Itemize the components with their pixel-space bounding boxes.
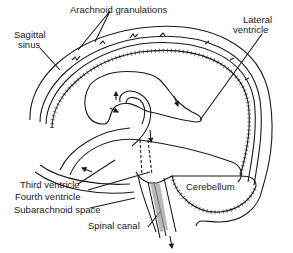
third-ventricle bbox=[120, 91, 151, 146]
label-third-ventricle: Third ventricle bbox=[20, 180, 80, 190]
label-cerebellum: Cerebellum bbox=[186, 182, 235, 192]
label-fourth-ventricle: Fourth ventricle bbox=[15, 192, 80, 202]
aqueduct bbox=[140, 140, 152, 175]
lateral-ventricle bbox=[85, 72, 202, 125]
label-sagittal-sinus-line2: sinus bbox=[18, 40, 40, 50]
label-subarachnoid-space: Subarachnoid space bbox=[14, 205, 101, 215]
subarachnoid-shading bbox=[150, 182, 168, 232]
label-spinal-canal: Spinal canal bbox=[88, 221, 140, 231]
label-lateral-ventricle-line2: ventricle bbox=[233, 25, 268, 35]
label-arachnoid-granulations: Arachnoid granulations bbox=[70, 5, 167, 15]
